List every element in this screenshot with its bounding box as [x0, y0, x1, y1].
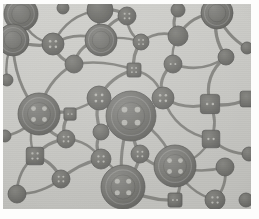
- square-button-node: [64, 108, 76, 120]
- round-button-node: [87, 86, 111, 110]
- round-button-node: [85, 24, 117, 56]
- round-button-node: [18, 93, 60, 135]
- round-button-node: [218, 49, 234, 65]
- round-button-node: [3, 74, 13, 86]
- figure-frame: [0, 0, 259, 219]
- square-button-node: [240, 91, 251, 107]
- round-button-node: [8, 185, 26, 203]
- round-button-node: [93, 124, 109, 140]
- round-button-node: [168, 26, 188, 46]
- square-button-node: [127, 63, 141, 77]
- round-button-node: [118, 7, 136, 25]
- round-button-node: [216, 158, 234, 176]
- round-button-node: [133, 34, 149, 50]
- round-button-node: [152, 87, 174, 109]
- round-button-node: [91, 149, 111, 169]
- round-button-node: [57, 4, 69, 14]
- round-button-node: [241, 42, 251, 54]
- round-button-node: [106, 91, 156, 141]
- round-button-node: [164, 55, 182, 73]
- round-button-node: [205, 190, 225, 209]
- round-button-node: [65, 55, 83, 73]
- round-button-node: [154, 145, 196, 187]
- square-button-node: [200, 94, 219, 113]
- round-button-node: [131, 145, 149, 163]
- round-button-node: [101, 165, 145, 209]
- plate-bottom-margin: [0, 209, 259, 219]
- round-button-node: [239, 193, 251, 207]
- round-button-node: [171, 4, 185, 17]
- round-button-node: [57, 130, 75, 148]
- round-button-node: [42, 33, 64, 55]
- square-button-node: [26, 147, 44, 165]
- square-button-node: [168, 193, 182, 207]
- photographic-plate: [3, 4, 251, 209]
- square-button-node: [202, 130, 220, 148]
- round-button-node: [3, 130, 11, 142]
- button-network-graphic: [3, 4, 251, 209]
- round-button-node: [52, 170, 70, 188]
